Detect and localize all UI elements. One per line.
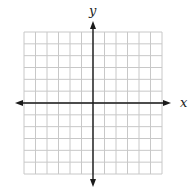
x-axis-left-arrow-icon <box>15 100 23 106</box>
x-axis-label: x <box>180 95 188 110</box>
y-axis-down-arrow-icon <box>90 179 96 187</box>
coordinate-plane: x y <box>0 0 195 194</box>
y-axis-label: y <box>88 3 97 18</box>
y-axis-up-arrow-icon <box>90 21 96 29</box>
x-axis-right-arrow-icon <box>163 100 171 106</box>
